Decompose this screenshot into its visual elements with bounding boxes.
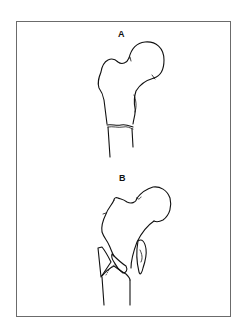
panel-a-femur-drawing — [98, 42, 164, 157]
panel-b-shaft-left — [102, 277, 104, 305]
panel-a-fracture-line-2 — [108, 127, 133, 129]
panel-b-neck-medial — [131, 221, 154, 268]
panel-b-superior-neck — [114, 198, 137, 203]
panel-a-head-tick — [130, 57, 131, 61]
panel-b-femoral-head — [137, 187, 171, 222]
panel-b-femur-drawing — [98, 187, 171, 305]
panel-a-shaft-left — [108, 127, 110, 157]
panel-a-shaft-right — [132, 129, 133, 147]
panel-a-greater-trochanter — [98, 58, 129, 124]
panel-b-fragment-detail — [140, 250, 142, 262]
panel-a-femoral-head — [129, 42, 164, 78]
panel-b-lesser-trochanter-fragment — [137, 240, 146, 274]
femur-illustrations — [0, 0, 242, 331]
panel-b-lateral-outline — [102, 200, 114, 256]
panel-b-shaft-top — [102, 266, 130, 280]
panel-a-neck-medial — [133, 78, 154, 124]
